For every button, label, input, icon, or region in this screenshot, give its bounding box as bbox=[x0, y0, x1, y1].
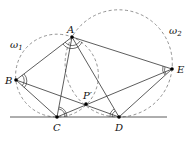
circle-omega2 bbox=[65, 10, 172, 117]
angle-mark-e-2 bbox=[164, 67, 166, 74]
angle-mark-d-2 bbox=[112, 111, 115, 117]
point-d bbox=[117, 115, 121, 119]
label-c: C bbox=[53, 122, 61, 133]
point-c bbox=[55, 115, 59, 119]
angle-mark-a-2 bbox=[65, 41, 80, 46]
segment-bd bbox=[16, 80, 119, 117]
segment-ab bbox=[16, 37, 72, 80]
angle-mark-b-2 bbox=[22, 75, 24, 86]
label-b: B bbox=[4, 75, 12, 86]
geometry-diagram: A B C D E P′ ω1 ω2 bbox=[0, 0, 187, 145]
segment-ac bbox=[57, 37, 72, 117]
label-e: E bbox=[176, 64, 185, 75]
point-e bbox=[170, 67, 174, 71]
segment-ae bbox=[72, 37, 172, 69]
label-d: D bbox=[114, 122, 123, 133]
point-a bbox=[70, 35, 74, 39]
segment-ad bbox=[72, 37, 119, 117]
segments bbox=[16, 37, 172, 117]
angle-marks bbox=[22, 41, 166, 117]
points bbox=[14, 35, 174, 119]
label-omega1: ω1 bbox=[10, 39, 23, 52]
label-p: P′ bbox=[82, 90, 93, 101]
label-omega2: ω2 bbox=[169, 25, 182, 38]
point-p bbox=[84, 102, 88, 106]
label-a: A bbox=[66, 24, 74, 35]
point-b bbox=[14, 78, 18, 82]
